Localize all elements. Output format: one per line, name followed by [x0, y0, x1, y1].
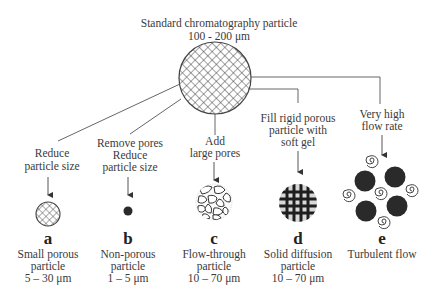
- svg-text:Add: Add: [205, 135, 225, 147]
- connector-e: [251, 77, 380, 104]
- action-label-e: Very high flow rate: [359, 108, 404, 132]
- swirl-icon: [406, 185, 418, 197]
- title-line-2: 100 - 200 μm: [188, 30, 250, 43]
- dense-particle-icon: [385, 167, 406, 188]
- small-crosshatch-particle-icon: [36, 202, 60, 226]
- swirl-icon: [343, 190, 355, 202]
- svg-text:Reduce: Reduce: [35, 147, 69, 159]
- dense-particle-icon: [355, 171, 376, 192]
- svg-text:particle size: particle size: [102, 161, 157, 174]
- label-letter-d: d: [293, 229, 303, 248]
- action-label-a: Reduce particle size: [24, 147, 79, 173]
- svg-text:flow rate: flow rate: [361, 120, 402, 132]
- swirl-icon: [378, 217, 390, 229]
- dense-particle-icon: [356, 201, 377, 222]
- dense-particle-icon: [387, 196, 408, 217]
- label-letter-b: b: [123, 229, 132, 248]
- svg-text:particle size: particle size: [24, 160, 79, 173]
- gel-filled-grid-particle-icon: [275, 180, 321, 226]
- action-label-c: Add large pores: [190, 135, 241, 160]
- connector-d: [248, 89, 298, 103]
- description-a: Small porous particle 5 – 30 μm: [17, 248, 79, 285]
- svg-text:Turbulent flow: Turbulent flow: [348, 248, 418, 260]
- turbulent-flow-particles-icon: [343, 156, 418, 229]
- label-letter-a: a: [44, 229, 53, 248]
- solid-dot-particle-icon: [124, 207, 133, 216]
- svg-text:1 – 5 μm: 1 – 5 μm: [108, 272, 149, 285]
- svg-text:5 – 30 μm: 5 – 30 μm: [25, 272, 72, 285]
- svg-text:10 – 70 μm: 10 – 70 μm: [188, 272, 241, 285]
- title: Standard chromatography particle 100 - 2…: [141, 17, 297, 43]
- svg-text:10 – 70 μm: 10 – 70 μm: [272, 272, 325, 285]
- svg-text:Reduce: Reduce: [113, 149, 147, 161]
- chromatography-particle-diagram: Standard chromatography particle 100 - 2…: [0, 0, 438, 294]
- action-label-b: Remove pores Reduce particle size: [97, 137, 164, 174]
- action-label-d: Fill rigid porous particle with soft gel: [261, 112, 336, 149]
- swirl-icon: [375, 188, 387, 200]
- description-d: Solid diffusion particle 10 – 70 μm: [264, 248, 333, 285]
- description-c: Flow-through particle 10 – 70 μm: [182, 248, 246, 285]
- svg-text:large pores: large pores: [190, 147, 241, 160]
- swirl-icon: [366, 156, 378, 168]
- description-b: Non-porous particle 1 – 5 μm: [101, 248, 156, 285]
- svg-text:Solid diffusion: Solid diffusion: [264, 248, 333, 260]
- label-letter-c: c: [210, 229, 218, 248]
- title-line-1: Standard chromatography particle: [141, 17, 297, 30]
- standard-particle-icon: [179, 42, 251, 114]
- description-e: Turbulent flow: [348, 248, 418, 260]
- svg-text:soft gel: soft gel: [281, 136, 315, 149]
- large-pore-particle-icon: [196, 184, 232, 220]
- label-letter-e: e: [378, 229, 386, 248]
